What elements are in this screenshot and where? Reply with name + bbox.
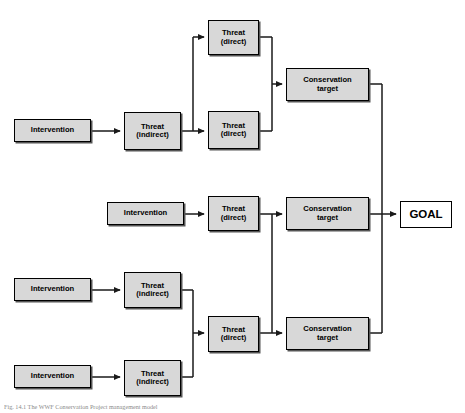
node-label: Conservation target xyxy=(287,325,368,342)
node-label: Threat (direct) xyxy=(209,29,258,46)
node-thr-dir-4[interactable]: Threat (direct) xyxy=(208,316,259,352)
figure-caption: Fig. 14.1 The WWF Conservation Project m… xyxy=(4,403,444,410)
node-label: Intervention xyxy=(108,209,183,218)
node-cons-bot[interactable]: Conservation target xyxy=(286,317,369,350)
node-int-top[interactable]: Intervention xyxy=(14,119,91,142)
results-chain-diagram: InterventionThreat (indirect)Threat (dir… xyxy=(0,0,465,413)
node-thr-ind-top[interactable]: Threat (indirect) xyxy=(124,112,181,150)
node-label: Intervention xyxy=(15,372,90,381)
node-label: Threat (indirect) xyxy=(125,282,180,299)
node-label: Intervention xyxy=(15,285,90,294)
node-label: Threat (direct) xyxy=(209,122,258,139)
node-thr-ind-b1[interactable]: Threat (indirect) xyxy=(124,272,181,308)
node-cons-mid[interactable]: Conservation target xyxy=(286,197,369,230)
node-thr-dir-1[interactable]: Threat (direct) xyxy=(208,20,259,55)
node-int-mid[interactable]: Intervention xyxy=(107,202,184,225)
node-int-bot2[interactable]: Intervention xyxy=(14,365,91,388)
node-label: Intervention xyxy=(15,126,90,135)
node-thr-dir-2[interactable]: Threat (direct) xyxy=(208,111,259,149)
node-label: Conservation target xyxy=(287,76,368,93)
node-label: Threat (indirect) xyxy=(125,370,180,387)
node-label: Threat (direct) xyxy=(209,326,258,343)
node-label: Conservation target xyxy=(287,205,368,222)
node-label: Threat (indirect) xyxy=(125,123,180,140)
node-int-bot1[interactable]: Intervention xyxy=(14,278,91,301)
node-label: GOAL xyxy=(401,208,451,221)
node-label: Threat (direct) xyxy=(209,205,258,222)
node-cons-top[interactable]: Conservation target xyxy=(286,68,369,101)
node-goal[interactable]: GOAL xyxy=(400,201,452,228)
node-thr-dir-3[interactable]: Threat (direct) xyxy=(208,196,259,231)
node-thr-ind-b2[interactable]: Threat (indirect) xyxy=(124,360,181,396)
